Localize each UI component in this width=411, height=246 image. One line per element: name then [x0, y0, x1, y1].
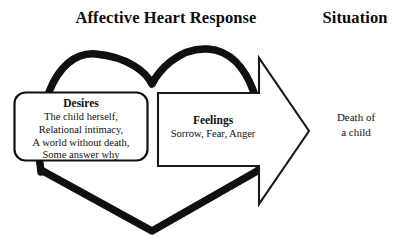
desires-text-block: Desires The child herself, Relational in… [14, 96, 148, 162]
desires-line-1: The child herself, [14, 111, 148, 124]
feelings-title: Feelings [163, 113, 263, 127]
affective-heart-response-diagram: Affective Heart Response Situation Desir… [0, 0, 411, 246]
desires-line-3: A world without death, [14, 137, 148, 150]
page-title-affective-heart-response: Affective Heart Response [52, 8, 280, 28]
desires-line-2: Relational intimacy, [14, 124, 148, 137]
situation-line-2: a child [316, 125, 396, 140]
page-title-situation: Situation [303, 8, 407, 28]
desires-title: Desires [14, 96, 148, 110]
feelings-text-block: Feelings Sorrow, Fear, Anger [163, 113, 263, 141]
feelings-line-1: Sorrow, Fear, Anger [163, 128, 263, 141]
situation-text-block: Death of a child [316, 110, 396, 140]
desires-line-4: Some answer why [14, 149, 148, 162]
situation-line-1: Death of [316, 110, 396, 125]
